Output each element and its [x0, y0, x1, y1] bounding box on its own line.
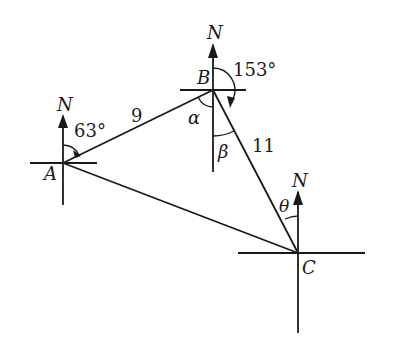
- point-label-b: B: [196, 67, 210, 88]
- north-arrow-icon: [58, 114, 68, 128]
- side-label-bc: 11: [252, 135, 275, 156]
- side-bc: [213, 90, 298, 253]
- north-label-a: N: [56, 94, 74, 115]
- bearing-diagram: N N N A B C 63° 153° 9 11 α β θ: [0, 0, 396, 354]
- point-label-c: C: [302, 257, 316, 278]
- bearing-label-a: 63°: [74, 120, 106, 141]
- angle-label-beta: β: [217, 141, 228, 162]
- side-ac: [63, 163, 298, 253]
- bearing-arc-b: [213, 68, 235, 99]
- point-label-a: A: [42, 163, 57, 184]
- angle-label-alpha: α: [188, 107, 200, 128]
- triangle: [63, 90, 298, 253]
- theta-arc: [285, 216, 298, 219]
- north-label-c: N: [291, 170, 309, 191]
- north-arrow-icon: [208, 43, 218, 58]
- bearing-label-b: 153°: [233, 59, 276, 80]
- side-label-ab: 9: [131, 105, 142, 126]
- angle-label-theta: θ: [279, 196, 289, 216]
- alpha-arc: [198, 97, 213, 107]
- north-arrow-icon: [293, 190, 303, 205]
- beta-arc: [213, 131, 234, 136]
- labels: N N N A B C 63° 153° 9 11 α β θ: [42, 22, 316, 278]
- north-label-b: N: [206, 22, 224, 43]
- arc-arrow-icon: [227, 96, 235, 108]
